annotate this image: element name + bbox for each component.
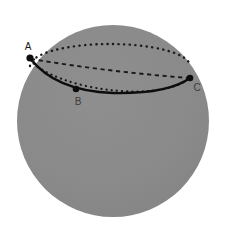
geometry-figure: A B C xyxy=(0,0,229,237)
point-a-label: A xyxy=(25,41,32,52)
point-c-marker xyxy=(187,75,194,82)
sphere-diagram-canvas: A B C xyxy=(0,0,229,237)
point-c-label: C xyxy=(193,82,200,93)
point-b-marker xyxy=(73,86,80,93)
point-a-marker xyxy=(26,54,33,61)
point-b-label: B xyxy=(75,96,82,107)
sphere-body xyxy=(17,25,209,217)
